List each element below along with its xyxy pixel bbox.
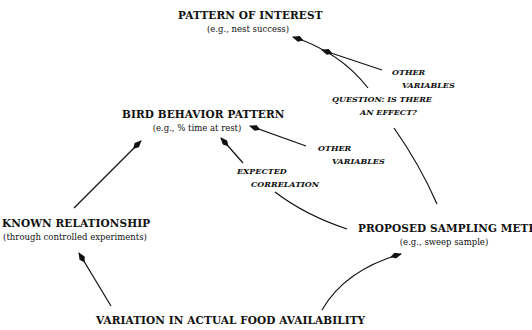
node-bird-behavior: BIRD BEHAVIOR PATTERN (e.g., % time at r… — [122, 108, 272, 133]
arrow-food-to-sampling — [322, 254, 401, 310]
arrow-question-to-pattern — [293, 37, 368, 88]
label-question: QUESTION: IS THERE AN EFFECT? — [332, 93, 432, 119]
label-other-variables-mid: OTHER VARIABLES — [318, 142, 385, 168]
node-example: (through controlled experiments) — [2, 232, 148, 242]
node-title: KNOWN RELATIONSHIP — [2, 217, 148, 229]
node-proposed-sampling: PROPOSED SAMPLING METHOD (e.g., sweep sa… — [358, 222, 530, 247]
label-other-variables-top: OTHER VARIABLES — [392, 66, 455, 92]
node-known-relationship: KNOWN RELATIONSHIP (through controlled e… — [2, 217, 148, 242]
node-title: VARIATION IN ACTUAL FOOD AVAILABILITY — [96, 314, 336, 326]
label-expected-correlation: EXPECTED CORRELATION — [237, 165, 319, 191]
line-sampling-to-question — [394, 128, 437, 204]
arrow-other-to-pattern — [322, 50, 382, 70]
node-food-variation: VARIATION IN ACTUAL FOOD AVAILABILITY — [96, 314, 336, 326]
node-example: (e.g., nest success) — [178, 24, 318, 34]
node-title: PROPOSED SAMPLING METHOD — [358, 222, 530, 234]
arrow-correlation-to-behavior — [221, 138, 243, 163]
node-example: (e.g., % time at rest) — [122, 123, 272, 133]
node-title: BIRD BEHAVIOR PATTERN — [122, 108, 272, 120]
line-sampling-to-correlation — [275, 192, 347, 229]
node-pattern-of-interest: PATTERN OF INTEREST (e.g., nest success) — [178, 9, 318, 34]
node-example: (e.g., sweep sample) — [358, 237, 530, 247]
arrow-known-to-behavior — [74, 141, 141, 208]
arrow-food-to-known — [79, 253, 111, 306]
node-title: PATTERN OF INTEREST — [178, 9, 318, 21]
